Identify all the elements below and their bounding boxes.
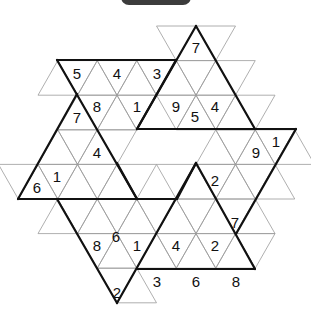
grid-line	[255, 199, 275, 234]
grid-line	[216, 26, 236, 61]
grid-line	[78, 199, 98, 234]
given-digit: 4	[172, 237, 180, 254]
grid-line	[97, 164, 117, 199]
grid-line	[157, 164, 177, 199]
given-digit: 2	[113, 284, 121, 301]
grid-line	[78, 164, 98, 199]
given-digit: 4	[93, 144, 101, 161]
border-line	[18, 94, 77, 199]
given-digit: 8	[93, 98, 101, 115]
border-line	[117, 163, 137, 199]
given-digit: 1	[53, 168, 61, 185]
given-digit: 7	[192, 39, 200, 56]
given-digit: 7	[231, 214, 239, 231]
border-line	[177, 163, 196, 199]
grid-line	[38, 61, 58, 96]
grid-line	[236, 164, 256, 199]
grid-line	[0, 164, 18, 199]
grid-line	[295, 130, 311, 165]
given-digit: 6	[112, 228, 120, 245]
given-digit: 5	[191, 108, 199, 125]
given-digit: 6	[33, 179, 41, 196]
given-digit: 2	[211, 172, 219, 189]
grid-line	[137, 199, 157, 234]
given-digit: 1	[133, 237, 141, 254]
given-digit: 9	[252, 144, 260, 161]
given-digit: 9	[172, 98, 180, 115]
given-digit: 4	[113, 65, 121, 82]
grid-line	[196, 61, 216, 96]
grid-line	[196, 130, 216, 165]
givens: 75438195474912618614273682	[33, 39, 280, 301]
grid-line	[117, 130, 137, 165]
grid-line	[176, 61, 196, 96]
grid-line	[275, 164, 295, 199]
given-digit: 6	[192, 273, 200, 290]
grid-line	[255, 95, 275, 130]
puzzle-board: 75438195474912618614273682	[0, 0, 311, 320]
given-digit: 3	[153, 273, 161, 290]
grid-line	[196, 199, 216, 234]
given-digit: 3	[153, 65, 161, 82]
given-digit: 1	[272, 133, 280, 150]
given-digit: 1	[133, 98, 141, 115]
grid-line	[38, 199, 58, 234]
given-digit: 5	[73, 65, 81, 82]
grid-line	[157, 26, 177, 61]
grid-line	[216, 130, 236, 165]
border-line	[57, 199, 117, 303]
given-digit: 8	[232, 273, 240, 290]
given-digit: 4	[211, 98, 219, 115]
given-digit: 2	[211, 237, 219, 254]
grid-line	[236, 61, 256, 96]
given-digit: 8	[93, 237, 101, 254]
grid-line	[176, 199, 196, 234]
given-digit: 7	[73, 109, 81, 126]
border-line	[196, 26, 255, 129]
grid-line	[255, 234, 275, 269]
grid-line	[58, 130, 78, 165]
grid-line	[137, 164, 157, 199]
